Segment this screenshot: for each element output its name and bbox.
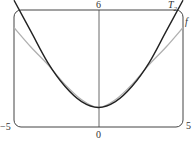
viewing-window-frame bbox=[14, 10, 183, 127]
y-max-tick-label: 6 bbox=[96, 0, 101, 10]
t2-label-subscript: 2 bbox=[174, 5, 178, 13]
graph-canvas bbox=[0, 0, 194, 142]
t2-curve bbox=[14, 0, 183, 107]
x-max-tick-label: 5 bbox=[186, 121, 191, 131]
x-min-tick-label: −5 bbox=[0, 122, 11, 132]
f-curve bbox=[14, 28, 183, 108]
t2-curve-label: T2 bbox=[168, 0, 177, 13]
f-curve-label: f bbox=[185, 17, 188, 27]
x-origin-tick-label: 0 bbox=[96, 130, 101, 140]
